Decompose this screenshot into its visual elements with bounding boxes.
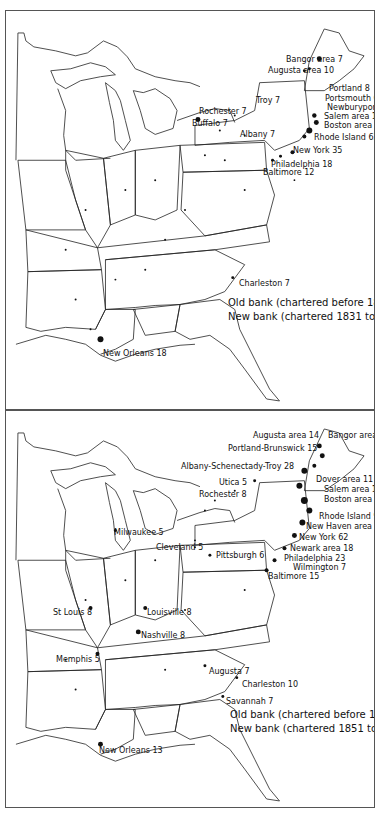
city-label-utica: Utica 5 [219, 478, 247, 487]
legend-label-old-bank: Old bank (chartered before 1831) [228, 296, 375, 310]
city-label-albany: Albany 7 [240, 130, 275, 139]
legend-item-old-bank: Old bank (chartered before 1851) [230, 708, 375, 722]
city-label-portsmouth: Portsmouth 6 [325, 94, 375, 103]
city-label-wilmington: Wilmington 7 [293, 563, 346, 572]
city-label-boston-area: Boston area 39 [324, 121, 375, 130]
city-label-bangor-area: Bangor area 7 [286, 55, 343, 64]
legend-item-new-bank: New bank (chartered 1831 to 1840) [228, 310, 375, 324]
city-label-baltimore: Baltimore 12 [263, 168, 314, 177]
city-label-st-louis: St Louis 8 [53, 608, 92, 617]
city-label-rhode-island: Rhode Island 62 [314, 133, 375, 142]
city-label-augusta-area: Augusta area 14 [253, 431, 319, 440]
city-label-new-york: New York 35 [293, 146, 342, 155]
map-legend-1831-1840: Old bank (chartered before 1831) New ban… [228, 296, 375, 324]
city-label-salem-area: Salem area 12 [324, 112, 375, 121]
city-label-louisville: Louisville 8 [147, 608, 192, 617]
city-label-bangor-area: Bangor area 14 [328, 431, 375, 440]
city-label-dover-area: Dover area 11 [316, 475, 373, 484]
legend-label-old-bank: Old bank (chartered before 1851) [230, 708, 375, 722]
map-panel-1851-1861: Augusta area 14 Bangor area 14 Portland-… [5, 410, 375, 808]
city-label-augusta: Augusta 7 [209, 667, 250, 676]
city-label-charleston: Charleston 7 [239, 279, 290, 288]
city-label-albany-schenectady-troy: Albany-Schenectady-Troy 28 [181, 462, 294, 471]
city-label-rochester: Rochester 7 [199, 107, 247, 116]
legend-label-new-bank: New bank (chartered 1831 to 1840) [228, 310, 375, 324]
legend-label-new-bank: New bank (chartered 1851 to 1861) [230, 722, 375, 736]
city-label-portland-brunswick: Portland-Brunswick 15 [228, 444, 317, 453]
city-label-charleston: Charleston 10 [242, 680, 298, 689]
city-label-pittsburgh: Pittsburgh 6 [216, 551, 264, 560]
city-label-boston-area: Boston area 72 [324, 495, 375, 504]
city-label-newark-area: Newark area 18 [290, 544, 353, 553]
city-label-new-haven-area: New Haven area 15 [306, 522, 375, 531]
city-label-new-york: New York 62 [299, 533, 348, 542]
city-label-new-orleans: New Orleans 18 [103, 349, 167, 358]
city-label-newburyport: Newburyport 5 [327, 103, 375, 112]
city-label-baltimore: Baltimore 15 [268, 572, 319, 581]
city-label-troy: Troy 7 [256, 96, 280, 105]
map-legend-1851-1861: Old bank (chartered before 1851) New ban… [230, 708, 375, 736]
city-label-savannah: Savannah 7 [226, 697, 273, 706]
city-label-rochester: Rochester 8 [199, 490, 247, 499]
city-label-new-orleans: New Orleans 13 [99, 746, 163, 755]
city-label-rhode-island: Rhode Island 93 [319, 512, 375, 521]
city-label-nashville: Nashville 8 [141, 631, 185, 640]
city-label-buffalo: Buffalo 7 [192, 119, 228, 128]
legend-item-old-bank: Old bank (chartered before 1831) [228, 296, 375, 310]
city-label-salem-area: Salem area 18 [324, 485, 375, 494]
map-panel-1831-1840: Bangor area 7 Augusta area 10 Portland 8… [5, 10, 375, 410]
city-label-milwaukee: Milwaukee 5 [114, 528, 164, 537]
city-label-augusta-area: Augusta area 10 [268, 66, 334, 75]
city-label-philadelphia: Philadelphia 23 [284, 554, 345, 563]
legend-item-new-bank: New bank (chartered 1851 to 1861) [230, 722, 375, 736]
city-label-cleveland: Cleveland 5 [156, 543, 203, 552]
city-label-memphis: Memphis 5 [56, 655, 100, 664]
city-label-portland: Portland 8 [329, 84, 370, 93]
